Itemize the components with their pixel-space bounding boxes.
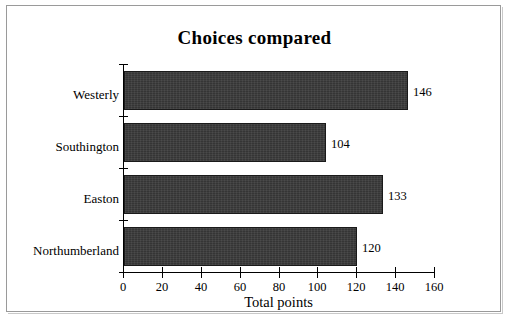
category-label-westerly: Westerly [7, 88, 119, 101]
value-axis-tick [317, 267, 318, 278]
value-axis-tick-label: 0 [103, 280, 143, 295]
value-axis-tick-label: 80 [259, 280, 299, 295]
value-axis-tick-label: 20 [142, 280, 182, 295]
figure-frame-shadow-right [502, 7, 503, 313]
value-axis-tick-label: 100 [297, 280, 337, 295]
figure-frame: Choices compared Westerly Southington Ea… [6, 5, 501, 312]
figure-frame-shadow-bottom [8, 313, 503, 314]
plot-area: 0 20 40 60 80 100 120 140 160 146 104 13… [123, 64, 434, 272]
value-axis-tick [395, 267, 396, 278]
bar-northumberland[interactable] [124, 227, 357, 266]
value-axis-title: Total points [123, 294, 434, 311]
category-label-northumberland: Northumberland [7, 244, 119, 257]
category-label-easton: Easton [7, 192, 119, 205]
value-axis-tick-label: 160 [414, 280, 454, 295]
chart-title: Choices compared [7, 27, 502, 49]
value-axis-tick-label: 120 [336, 280, 376, 295]
category-axis-tick [119, 168, 128, 169]
category-axis-labels: Westerly Southington Easton Northumberla… [7, 64, 119, 272]
bar-value-easton: 133 [388, 190, 407, 203]
bar-value-westerly: 146 [413, 86, 432, 99]
category-axis-tick [119, 220, 128, 221]
bar-value-southington: 104 [331, 138, 350, 151]
value-axis-tick [434, 267, 435, 278]
value-axis-tick [240, 267, 241, 278]
value-axis-tick-label: 140 [375, 280, 415, 295]
value-axis-tick [279, 267, 280, 278]
value-axis-tick-label: 60 [220, 280, 260, 295]
value-axis-tick [123, 267, 124, 278]
value-axis-tick [356, 267, 357, 278]
category-axis-tick [119, 116, 128, 117]
value-axis-tick [162, 267, 163, 278]
bar-value-northumberland: 120 [362, 242, 381, 255]
bar-westerly[interactable] [124, 71, 408, 110]
bar-easton[interactable] [124, 175, 383, 214]
category-label-southington: Southington [7, 140, 119, 153]
value-axis-tick [201, 267, 202, 278]
category-axis-top-cap [119, 64, 128, 65]
value-axis-tick-label: 40 [181, 280, 221, 295]
bar-southington[interactable] [124, 123, 326, 162]
